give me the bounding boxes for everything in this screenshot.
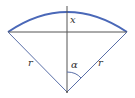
apex-point — [66, 91, 68, 93]
label-height: x — [70, 14, 76, 25]
sector-diagram: x r r α — [0, 0, 135, 98]
label-radius-left: r — [28, 57, 34, 68]
angle-arc — [67, 72, 81, 78]
label-angle: α — [71, 59, 78, 70]
label-radius-right: r — [98, 57, 104, 68]
radius-left — [8, 32, 67, 92]
